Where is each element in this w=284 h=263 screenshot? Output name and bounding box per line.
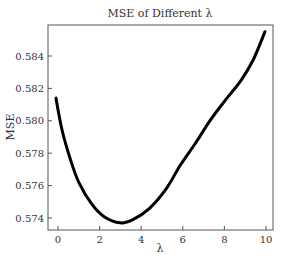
y-tick-label: 0.574 xyxy=(15,213,44,224)
x-tick-label: 10 xyxy=(260,234,273,245)
y-tick-label: 0.578 xyxy=(15,148,44,159)
mse-chart: MSE of Different λ 0246810 0.5740.5760.5… xyxy=(0,0,284,263)
x-tick-label: 2 xyxy=(96,234,102,245)
chart-title: MSE of Different λ xyxy=(108,7,213,20)
y-axis: 0.5740.5760.5780.5800.5820.584 xyxy=(15,51,52,224)
mse-curve xyxy=(56,32,265,223)
x-tick-label: 6 xyxy=(180,234,186,245)
x-tick-label: 0 xyxy=(55,234,61,245)
y-tick-label: 0.580 xyxy=(15,115,44,126)
x-tick-label: 4 xyxy=(138,234,144,245)
x-axis-label: λ xyxy=(157,242,164,255)
y-tick-label: 0.582 xyxy=(15,83,44,94)
x-tick-label: 8 xyxy=(221,234,227,245)
y-tick-label: 0.584 xyxy=(15,51,44,62)
y-axis-label: MSE xyxy=(4,114,17,141)
x-axis: 0246810 xyxy=(55,226,273,245)
y-tick-label: 0.576 xyxy=(15,180,44,191)
plot-frame xyxy=(48,25,273,230)
